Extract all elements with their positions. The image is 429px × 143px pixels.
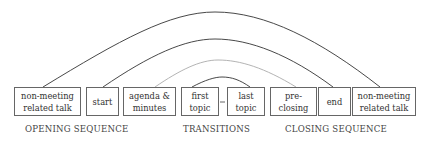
box-first-topic: first topic (181, 87, 219, 116)
section-label-transitions: TRANSITIONS (183, 124, 250, 134)
arc-non-meeting-talk (43, 12, 380, 87)
arc-first-last-topic (192, 77, 250, 87)
box-non-meeting-talk-closing: non-meeting related talk (352, 87, 416, 116)
box-end: end (318, 87, 351, 116)
nesting-arcs (0, 0, 429, 143)
box-start: start (86, 87, 119, 116)
box-label: start (93, 96, 113, 108)
box-agenda-minutes: agenda & minutes (123, 87, 176, 116)
box-label: agenda & minutes (124, 90, 175, 114)
box-pre-closing: pre- closing (270, 87, 317, 116)
box-last-topic: last topic (227, 87, 265, 116)
box-non-meeting-talk-opening: non-meeting related talk (14, 87, 81, 116)
box-label: first topic (182, 90, 218, 114)
section-label-opening: OPENING SEQUENCE (25, 124, 128, 134)
box-label: non-meeting related talk (15, 90, 80, 114)
arc-agenda-preclosing (155, 60, 296, 87)
box-label: last topic (228, 90, 264, 114)
arc-start-end (103, 39, 333, 87)
box-label: end (327, 96, 343, 108)
box-label: non-meeting related talk (353, 90, 415, 114)
box-label: pre- closing (271, 90, 316, 114)
section-label-closing: CLOSING SEQUENCE (285, 124, 387, 134)
